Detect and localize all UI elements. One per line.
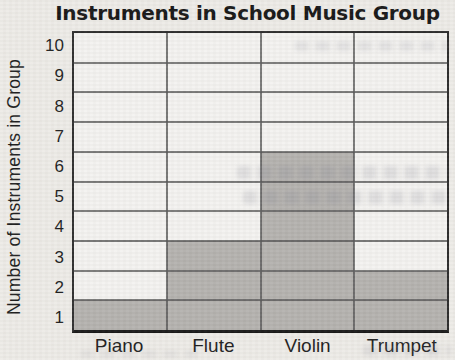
scanned-textbook-page: Instruments in School Music Group Number…: [0, 0, 455, 360]
y-tick-label-2: 2: [24, 273, 64, 303]
y-tick-label-10: 10: [24, 31, 64, 61]
x-category-label-violin: Violin: [261, 335, 355, 357]
bar-piano: [74, 300, 167, 330]
x-category-label-piano: Piano: [72, 335, 166, 357]
y-tick-label-1: 1: [24, 303, 64, 333]
y-tick-label-5: 5: [24, 182, 64, 212]
y-tick-label-4: 4: [24, 212, 64, 242]
x-category-label-trumpet: Trumpet: [355, 335, 449, 357]
vertical-gridline: [166, 33, 168, 330]
y-tick-label-6: 6: [24, 152, 64, 182]
vertical-gridline: [260, 33, 262, 330]
chart-plot-area: [72, 31, 449, 333]
vertical-gridline: [353, 33, 355, 330]
x-axis-category-labels: PianoFluteViolinTrumpet: [72, 335, 449, 357]
y-tick-label-3: 3: [24, 242, 64, 272]
chart-title: Instruments in School Music Group: [40, 1, 455, 25]
y-tick-label-7: 7: [24, 122, 64, 152]
x-category-label-flute: Flute: [166, 335, 260, 357]
y-tick-label-9: 9: [24, 61, 64, 91]
y-tick-label-8: 8: [24, 91, 64, 121]
y-axis-tick-labels: 10987654321: [24, 31, 64, 333]
bar-flute: [167, 241, 260, 330]
